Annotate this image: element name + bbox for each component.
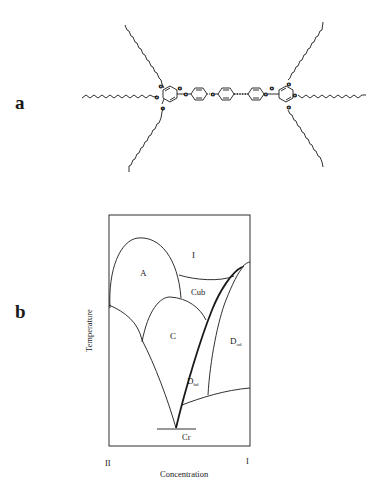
region-label-cr: Cr (182, 432, 191, 442)
x-left-label: II (105, 458, 111, 468)
figure: a b O O O O O (0, 0, 387, 489)
region-label-dhd: D hd (187, 376, 199, 387)
boundary-dod-left (208, 266, 244, 395)
y-axis-label: Temperature (84, 309, 94, 352)
region-label-isotropic: I (192, 250, 195, 260)
boundary-cub-top (179, 275, 234, 280)
region-label-dod: D od (230, 336, 242, 347)
region-label-cub: Cub (191, 287, 205, 297)
region-label-c: C (170, 331, 176, 341)
x-axis-label: Concentration (160, 469, 209, 479)
region-label-dod-sub: od (237, 342, 243, 347)
region-label-a: A (140, 268, 147, 278)
region-label-dhd-sub: hd (194, 382, 200, 387)
phase-diagram: I A Cub C D od D hd Cr II I Concentratio… (0, 0, 387, 489)
boundary-lower (182, 388, 250, 405)
boundary-left-descending (109, 305, 176, 428)
x-right-label: I (246, 456, 249, 466)
boundary-top-right (242, 262, 250, 267)
